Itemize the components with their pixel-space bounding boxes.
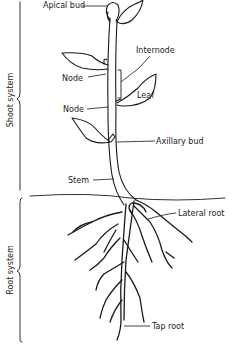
- root-system-bracket: [17, 198, 22, 342]
- stem-drawing: [108, 18, 136, 205]
- axillary-bud-label: Axillary bud: [156, 137, 204, 146]
- plant-diagram: Shoot system Root system: [0, 0, 232, 353]
- internode-bracket: [118, 70, 121, 98]
- root-drawing: [68, 200, 192, 340]
- tap-root-label: Tap root: [151, 322, 184, 331]
- lateral-root-label: Lateral root: [178, 209, 224, 218]
- leaf-label: Leaf: [137, 91, 154, 100]
- root-system-label: Root system: [6, 245, 15, 295]
- right-leaf-drawing: [116, 74, 156, 106]
- upper-left-leaf-drawing: [62, 53, 108, 70]
- internode-label: Internode: [136, 46, 175, 55]
- apical-bud-drawing: [106, 3, 119, 23]
- node-upper-label: Node: [62, 74, 83, 83]
- top-leaf-drawing: [117, 0, 143, 24]
- shoot-system-label: Shoot system: [6, 73, 15, 128]
- ground-line: [30, 194, 225, 200]
- stem-label: Stem: [68, 176, 89, 185]
- apical-bud-label: Apical bud: [43, 1, 85, 10]
- node-lower-label: Node: [63, 105, 84, 114]
- shoot-system-bracket: [17, 2, 20, 190]
